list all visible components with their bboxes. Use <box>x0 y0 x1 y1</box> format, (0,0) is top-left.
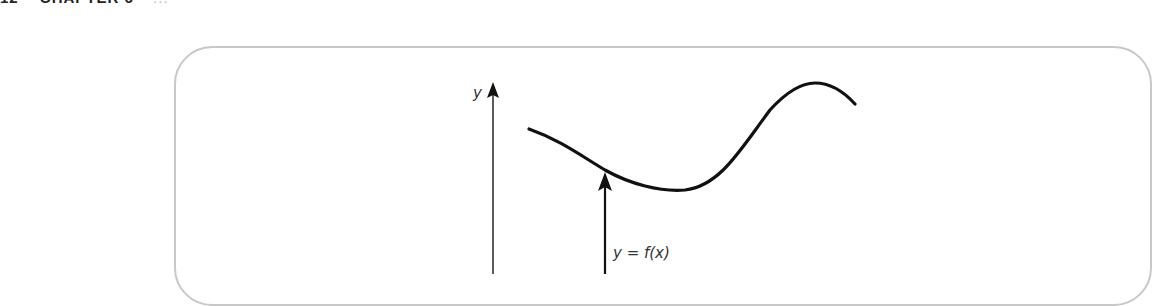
value-arrow <box>598 172 612 274</box>
function-curve <box>529 83 855 190</box>
y-axis <box>487 82 499 274</box>
y-axis-label: y <box>472 84 483 102</box>
function-label: y = f(x) <box>612 244 670 262</box>
